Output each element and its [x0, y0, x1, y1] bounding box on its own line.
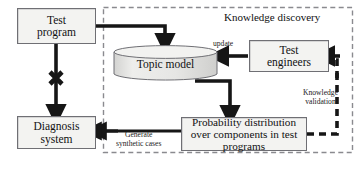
- region-title: Knowledge discovery: [224, 11, 320, 23]
- cylinder-shape: [113, 45, 218, 81]
- node-probability-distribution-label: Probability distribution over components…: [189, 116, 300, 152]
- node-diagnosis-system-label: Diagnosis system: [32, 120, 82, 145]
- edge-label-update: update: [213, 40, 233, 49]
- node-diagnosis-system[interactable]: Diagnosis system: [17, 116, 96, 149]
- node-test-program[interactable]: Test program: [17, 8, 96, 44]
- edge-test-program-to-topic-model: [96, 26, 165, 37]
- node-test-engineers-label: Test engineers: [265, 44, 313, 69]
- node-topic-model[interactable]: Topic model: [113, 45, 218, 81]
- edge-label-generate-synthetic-cases: Generate synthetic cases: [116, 131, 161, 148]
- edge-label-knowledge-validation: Knowledge validation: [303, 89, 338, 106]
- diagram-canvas: Knowledge discovery Test program Diagnos…: [0, 0, 361, 174]
- edge-topic-model-to-probability: [195, 81, 230, 109]
- node-test-engineers[interactable]: Test engineers: [249, 40, 329, 72]
- node-test-program-label: Test program: [35, 14, 78, 39]
- node-probability-distribution[interactable]: Probability distribution over components…: [181, 117, 307, 151]
